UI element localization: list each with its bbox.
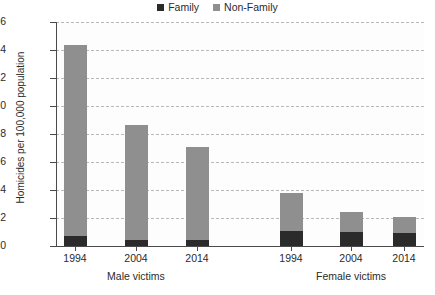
- y-axis-tick-label: 4: [0, 184, 6, 195]
- x-axis-tick-mark: [75, 246, 76, 251]
- x-axis-tick-mark: [291, 246, 292, 251]
- x-axis-tick-label: 2004: [321, 253, 381, 264]
- y-axis-tick-mark: [50, 78, 56, 79]
- x-axis-tick-label: 1994: [45, 253, 105, 264]
- y-axis-tick-mark: [50, 50, 56, 51]
- x-axis-tick-mark: [136, 246, 137, 251]
- y-axis-tick-mark: [50, 134, 56, 135]
- bar-male-2004[interactable]: [125, 125, 148, 246]
- bar-female-2004[interactable]: [340, 212, 363, 246]
- y-axis-tick-label: 12: [0, 72, 6, 83]
- x-axis-tick-label: 2014: [167, 253, 227, 264]
- gridline: [56, 162, 424, 163]
- gridline: [56, 218, 424, 219]
- bar-segment-non-family: [64, 45, 87, 235]
- y-axis-tick-mark: [50, 246, 56, 247]
- y-axis-title: Homicides per 100,000 population: [15, 13, 26, 243]
- bar-female-1994[interactable]: [280, 193, 303, 246]
- y-axis-line: [56, 22, 57, 246]
- y-axis-tick-label: 0: [0, 240, 6, 251]
- y-axis-tick-mark: [50, 22, 56, 23]
- y-axis-tick-label: 8: [0, 128, 6, 139]
- x-axis-tick-label: 1994: [261, 253, 321, 264]
- chart-container: Family Non-Family Homicides per 100,000 …: [0, 0, 435, 295]
- x-axis-tick-mark: [197, 246, 198, 251]
- gridline: [56, 134, 424, 135]
- bar-segment-family: [340, 232, 363, 246]
- bar-male-1994[interactable]: [64, 45, 87, 246]
- group-label-female: Female victims: [271, 271, 431, 282]
- bar-segment-non-family: [125, 125, 148, 240]
- bar-female-2014[interactable]: [393, 217, 416, 246]
- y-axis-tick-label: 6: [0, 156, 6, 167]
- bar-segment-non-family: [186, 147, 209, 240]
- legend-item-non-family: Non-Family: [213, 2, 278, 13]
- gridline: [56, 190, 424, 191]
- x-axis-tick-label: 2004: [106, 253, 166, 264]
- gridline: [56, 22, 424, 23]
- y-axis-tick-label: 16: [0, 16, 6, 27]
- bar-segment-non-family: [340, 212, 363, 232]
- legend-label-non-family: Non-Family: [224, 2, 278, 13]
- y-axis-tick-mark: [50, 162, 56, 163]
- gridline: [56, 78, 424, 79]
- legend-item-family: Family: [157, 2, 199, 13]
- y-axis-tick-mark: [50, 218, 56, 219]
- legend-swatch-non-family: [213, 4, 220, 11]
- bar-segment-family: [280, 231, 303, 246]
- bar-segment-family: [64, 236, 87, 247]
- y-axis-tick-label: 2: [0, 212, 6, 223]
- x-axis-tick-mark: [404, 246, 405, 251]
- x-axis-line: [56, 246, 424, 247]
- y-axis-tick-label: 10: [0, 100, 6, 111]
- y-axis-tick-mark: [50, 190, 56, 191]
- bar-segment-family: [393, 233, 416, 246]
- gridline: [56, 50, 424, 51]
- gridline: [56, 106, 424, 107]
- chart-legend: Family Non-Family: [0, 2, 435, 13]
- y-axis-tick-mark: [50, 106, 56, 107]
- x-axis-tick-mark: [351, 246, 352, 251]
- plot-area: [56, 22, 424, 246]
- bar-segment-non-family: [393, 217, 416, 233]
- legend-label-family: Family: [168, 2, 199, 13]
- y-axis-tick-label: 14: [0, 44, 6, 55]
- legend-swatch-family: [157, 4, 164, 11]
- x-axis-tick-label: 2014: [374, 253, 434, 264]
- bar-segment-non-family: [280, 193, 303, 232]
- bar-male-2014[interactable]: [186, 147, 209, 246]
- group-label-male: Male victims: [56, 271, 216, 282]
